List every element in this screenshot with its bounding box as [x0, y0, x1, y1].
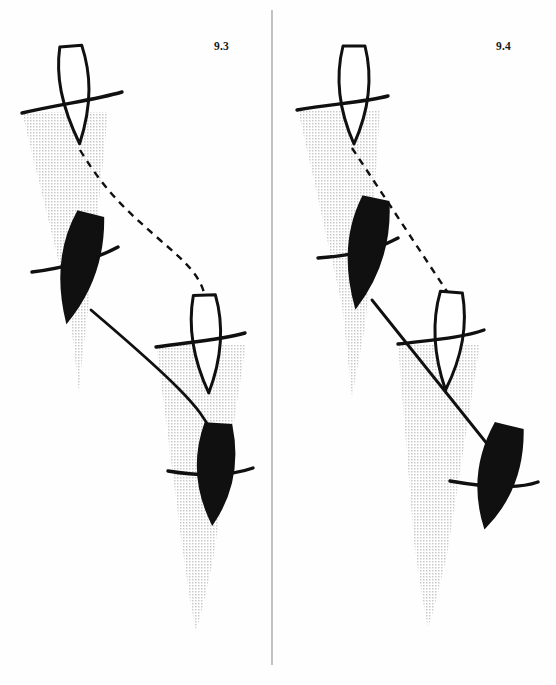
figure-canvas: [0, 0, 556, 685]
panel-right: [297, 46, 538, 628]
shuttle-4: [466, 422, 528, 532]
figure-label-9-4: 9.4: [496, 40, 511, 52]
panel-left: [22, 45, 253, 631]
wedge-2: [398, 344, 480, 628]
shuttle-body-solid: [466, 422, 528, 532]
figure-label-9-3: 9.3: [214, 40, 229, 52]
figure-root: 9.3 9.4: [0, 0, 556, 685]
